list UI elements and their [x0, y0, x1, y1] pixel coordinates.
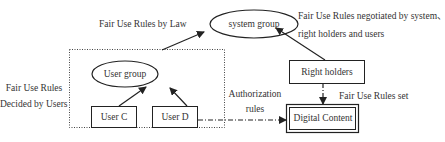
- decided-rules-label-line1: Fair Use Rules: [2, 82, 66, 94]
- law-rules-label: Fair Use Rules by Law: [99, 18, 187, 30]
- user-c-label: User C: [91, 111, 137, 123]
- edge-userd-to-usergroup: [170, 88, 187, 106]
- user-group-label: User group: [92, 68, 158, 80]
- right-holders-label: Right holders: [289, 66, 365, 78]
- decided-rules-label-line2: Decided by Users: [0, 98, 66, 110]
- authorization-rules-label-line2: rules: [226, 103, 284, 115]
- authorization-rules-label-line1: Authorization: [226, 88, 284, 100]
- negotiated-rules-label-line2: right holders and users: [298, 28, 384, 40]
- edge-usergroup-to-system: [162, 32, 204, 50]
- digital-content-label: Digital Content: [287, 112, 359, 124]
- edge-userc-to-usergroup: [119, 87, 146, 106]
- system-group-label: system group: [214, 18, 294, 30]
- user-d-label: User D: [152, 111, 198, 123]
- rules-set-label: Fair Use Rules set: [339, 90, 408, 102]
- negotiated-rules-label-line1: Fair Use Rules negotiated by system、: [298, 10, 445, 22]
